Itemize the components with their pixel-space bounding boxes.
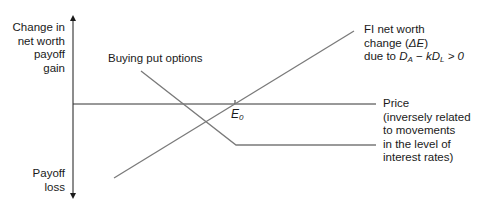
e0-label: E0 [231,108,243,125]
x-label-line: (inversely related [383,111,471,125]
y-label-line: payoff [13,48,65,62]
put-payoff-line [141,71,376,145]
net-worth-label-line: FI net worth [364,23,464,37]
net-worth-label: FI net worth change (ΔE) due to DA − kDL… [364,23,464,67]
y-label-line: net worth [13,35,65,49]
net-worth-condition: due to DA − kDL > 0 [364,50,464,67]
y-axis-loss-label: Payoff loss [33,167,65,194]
x-axis-label: Price (inversely related to movements in… [383,97,471,165]
y-label-line: Payoff [33,167,65,181]
net-worth-label-line: change (ΔE) [364,37,464,51]
x-label-line: in the level of [383,138,471,152]
y-axis-gain-label: Change in net worth payoff gain [13,21,65,75]
x-label-line: interest rates) [383,151,471,165]
x-label-line: to movements [383,124,471,138]
y-label-line: gain [13,62,65,76]
y-label-line: Change in [13,21,65,35]
y-label-line: loss [33,181,65,195]
put-options-label: Buying put options [108,52,203,66]
x-label-line: Price [383,97,471,111]
